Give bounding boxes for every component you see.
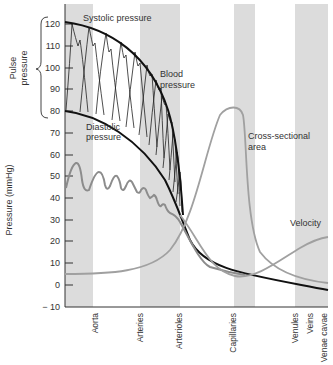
pulse-label: pressure (19, 50, 29, 85)
x-category-label: Venules (290, 313, 300, 343)
diastolic-pressure-label: Diastolic (86, 122, 121, 132)
velocity-label: Velocity (290, 218, 322, 228)
blood-pressure-label: pressure (160, 80, 195, 90)
cross-sectional-area-label: area (248, 142, 266, 152)
y-tick-label: 100 (45, 63, 60, 73)
y-tick-label: 80 (50, 106, 60, 116)
y-axis: 120 110 100 90 80 70 60 50 40 30 20 10 0… (4, 4, 73, 312)
y-tick-label: − 10 (42, 302, 60, 312)
y-tick-label: 90 (50, 84, 60, 94)
y-tick-label: 70 (50, 128, 60, 138)
diastolic-pressure-label: pressure (86, 132, 121, 142)
systolic-pressure-label: Systolic pressure (83, 13, 152, 23)
blood-pressure-label: Blood (160, 69, 183, 79)
x-category-label: Capillaries (228, 313, 238, 353)
x-category-label: Arteries (135, 313, 145, 342)
y-tick-label: 30 (50, 215, 60, 225)
x-axis: Aorta Arteries Arterioles Capillaries Ve… (65, 307, 329, 362)
y-tick-label: 40 (50, 193, 60, 203)
y-tick-label: 20 (50, 236, 60, 246)
x-category-label: Arterioles (174, 313, 184, 349)
circulation-chart: 120 110 100 90 80 70 60 50 40 30 20 10 0… (0, 0, 333, 365)
pulse-pressure-brace: Pulse pressure (8, 17, 48, 118)
pulse-label: Pulse (8, 57, 18, 80)
y-tick-label: 120 (45, 19, 60, 29)
x-category-label: Veins (305, 313, 315, 334)
y-tick-label: 0 (55, 280, 60, 290)
y-tick-label: 60 (50, 150, 60, 160)
y-tick-label: 50 (50, 171, 60, 181)
shaded-bands (65, 4, 328, 307)
y-tick-label: 10 (50, 258, 60, 268)
band-veins (295, 4, 328, 307)
x-category-label: Venae cavae (319, 313, 329, 362)
x-category-label: Aorta (90, 313, 100, 334)
y-tick-label: 110 (46, 41, 60, 51)
cross-sectional-area-label: Cross-sectional (248, 131, 310, 141)
y-axis-label: Pressure (mmHg) (4, 164, 14, 235)
band-capillaries (234, 4, 255, 307)
